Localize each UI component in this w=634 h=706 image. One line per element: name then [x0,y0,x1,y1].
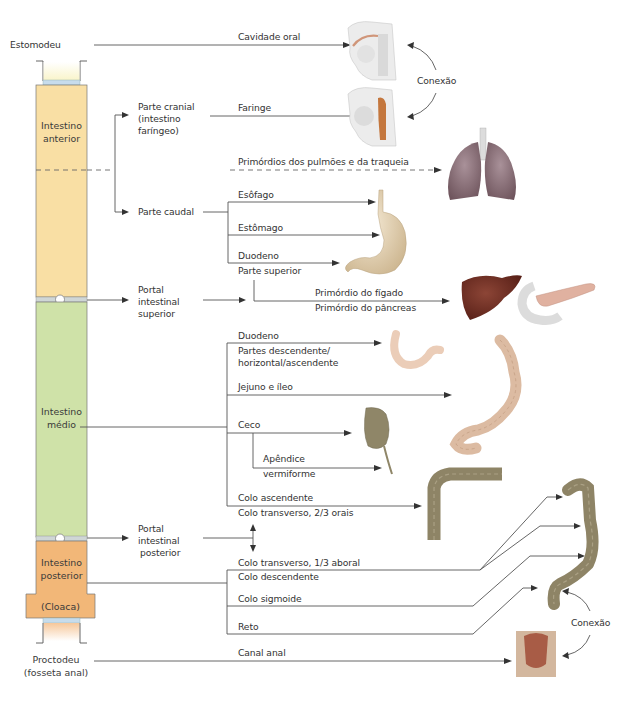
stomodeum-label: Estomodeu [10,39,61,51]
midgut-label: Intestino médio [36,406,87,431]
pancreas-primordium-label: Primórdio do pâncreas [315,302,416,314]
anal-canal-label: Canal anal [238,647,286,659]
gut-tube-column [26,61,95,643]
jejunum-ileum-label: Jejuno e íleo [238,381,293,393]
lung-primordia-label: Primórdios dos pulmões e da traqueia [238,156,409,168]
caudal-part-label: Parte caudal [138,206,194,218]
duodenum-lower-label: Duodeno Partes descendente/ horizontal/a… [238,330,338,369]
small-intestine-illustration [456,340,516,449]
duodenum-illustration [394,334,440,365]
transverse-colon-oral-label: Colo transverso, 2/3 orais [238,507,353,519]
colon-ascending-transverse-illustration [434,474,502,540]
duodenum-upper-label: Duodeno Parte superior [238,250,301,277]
descending-colon-label: Colo descendente [238,571,319,583]
pancreas-illustration [522,284,595,321]
connection-label-top: Conexão [417,75,456,87]
transverse-colon-aboral-label: Colo transverso, 1/3 aboral [238,557,360,569]
cranial-part-label: Parte cranial (intestino faríngeo) [138,101,194,137]
liver-primordium-label: Primórdio do fígado [315,287,403,299]
stomach-label: Estômago [238,222,283,234]
oral-cavity-label: Cavidade oral [238,31,300,43]
foregut-label: Intestino anterior [36,120,87,145]
pharynx-illustration [348,88,396,146]
cecum-illustration [364,408,392,474]
portal-posterior-label: Portal intestinal posterior [138,523,180,559]
sigmoid-colon-label: Colo sigmoide [238,593,302,605]
ascending-colon-label: Colo ascendente [238,492,313,504]
connection-label-bottom: Conexão [571,617,610,629]
gut-derivatives-diagram: Estomodeu Intestino anterior Intestino m… [0,0,634,706]
esophagus-label: Esôfago [238,189,274,201]
hindgut-label: Intestino posterior [36,557,87,582]
proctodeum-label: Proctodeu (fosseta anal) [6,654,106,679]
anal-canal-illustration [516,631,556,677]
cecum-label: Ceco [238,419,260,431]
liver-illustration [462,275,522,320]
appendix-label: Apêndice vermiforme [263,453,315,480]
pharynx-label: Faringe [238,102,271,114]
colon-descending-sigmoid-illustration [554,484,593,604]
stomach-illustration [345,190,406,274]
rectum-label: Reto [238,621,258,633]
cloaca-label: (Cloaca) [26,601,95,614]
oral-cavity-illustration [348,22,396,80]
lungs-illustration [448,128,516,200]
portal-superior-label: Portal intestinal superior [138,284,180,320]
